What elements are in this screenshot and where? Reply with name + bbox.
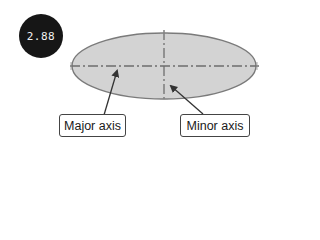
minor-axis-label: Minor axis xyxy=(180,114,250,137)
minor-axis-label-text: Minor axis xyxy=(187,119,244,133)
major-axis-label: Major axis xyxy=(59,114,126,137)
major-axis-label-text: Major axis xyxy=(64,119,121,133)
